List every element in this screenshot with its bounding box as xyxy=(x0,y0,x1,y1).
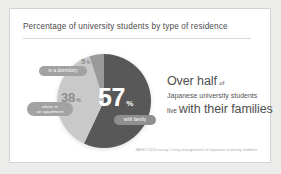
slice-value-percent-sign: % xyxy=(126,100,133,108)
headline-line-2: Japanese university students xyxy=(167,90,275,101)
slice-value-with-family: 57 % xyxy=(98,85,133,110)
headline-emphasis-with-their-families: with their families xyxy=(179,102,273,116)
infographic-card: Percentage of university students by typ… xyxy=(9,8,271,163)
title-divider xyxy=(23,38,251,39)
slice-value-dormitory: 5 % xyxy=(81,58,90,66)
headline-word-live: live xyxy=(167,108,177,115)
slice-label-with-family: with family xyxy=(114,115,156,125)
headline-line-3: live with their families xyxy=(167,102,275,116)
infographic-frame: Percentage of university students by typ… xyxy=(0,0,281,174)
slice-label-text: with family xyxy=(124,117,147,122)
headline-line-1: Over half of xyxy=(167,74,275,88)
headline-block: Over half of Japanese university student… xyxy=(167,74,275,116)
headline-emphasis-over-half: Over half xyxy=(167,74,217,88)
slice-label-alone-in-an-apartment: alone in an apartment xyxy=(27,102,73,116)
slice-value-number: 5 xyxy=(81,58,85,66)
headline-word-of: of xyxy=(219,80,224,86)
page-title: Percentage of university students by typ… xyxy=(23,22,228,32)
slice-value-percent-sign: % xyxy=(76,98,81,104)
slice-label-text: in a dormitory xyxy=(48,68,77,73)
source-note: JASSO 2021 survey: Living arrangements o… xyxy=(135,148,257,153)
slice-value-percent-sign: % xyxy=(86,61,90,66)
slice-label-text-line2: an apartment xyxy=(36,109,63,114)
slice-label-in-a-dormitory: in a dormitory xyxy=(39,66,87,76)
slice-value-number: 57 xyxy=(98,85,125,110)
headline-subject-text: Japanese university students xyxy=(167,90,257,101)
